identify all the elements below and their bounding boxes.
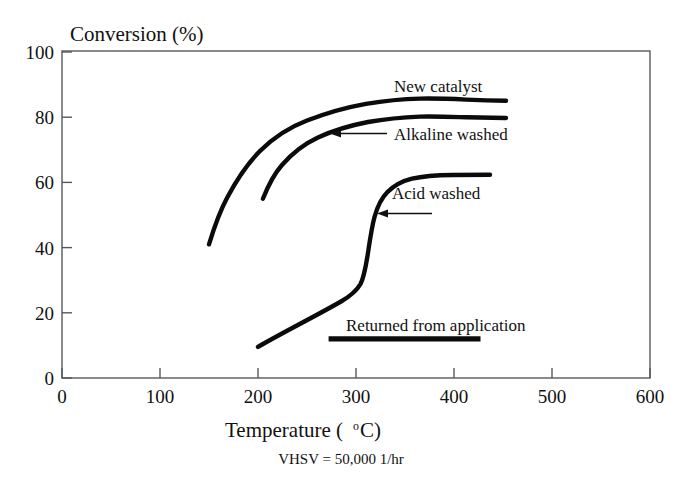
x-axis-title-main: Temperature ( xyxy=(225,418,343,442)
series-label-acid-washed: Acid washed xyxy=(392,184,481,203)
xtick-label-400: 400 xyxy=(440,386,469,407)
xtick-label-100: 100 xyxy=(146,386,175,407)
x-axis-title-degree: o xyxy=(353,419,359,433)
ytick-label-100: 100 xyxy=(26,42,55,63)
xtick-label-500: 500 xyxy=(538,386,567,407)
xtick-label-300: 300 xyxy=(342,386,371,407)
figure-container: 100 80 60 40 20 0 0 100 200 300 400 500 … xyxy=(0,0,682,489)
xtick-label-600: 600 xyxy=(636,386,665,407)
series-label-alkaline-washed: Alkaline washed xyxy=(394,125,508,144)
x-axis-title: Temperature ( o C) xyxy=(225,418,381,442)
ytick-label-40: 40 xyxy=(35,238,54,259)
xtick-label-200: 200 xyxy=(244,386,273,407)
x-axis-title-tail: C) xyxy=(360,418,381,442)
ytick-label-0: 0 xyxy=(45,368,55,389)
series-label-new-catalyst: New catalyst xyxy=(394,77,483,96)
figure-caption: VHSV = 50,000 1/hr xyxy=(278,451,404,467)
conversion-vs-temperature-chart: 100 80 60 40 20 0 0 100 200 300 400 500 … xyxy=(0,0,682,489)
ytick-label-60: 60 xyxy=(35,172,54,193)
ytick-label-80: 80 xyxy=(35,107,54,128)
series-label-returned-from-application: Returned from application xyxy=(346,316,526,335)
ytick-label-20: 20 xyxy=(35,303,54,324)
xtick-label-0: 0 xyxy=(57,386,67,407)
y-axis-title: Conversion (%) xyxy=(70,22,204,46)
